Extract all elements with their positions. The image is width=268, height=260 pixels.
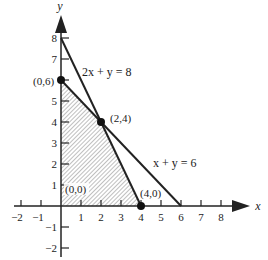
x-tick-label: 2	[98, 211, 104, 223]
x-tick-label: 5	[158, 211, 164, 223]
x-tick-label: −1	[32, 211, 44, 223]
point-label-0-6: (0,6)	[33, 75, 54, 88]
x-tick-labels: −2 −1 1 2 3 4 5 6 7 8	[11, 211, 224, 223]
x-tick-label: 6	[178, 211, 184, 223]
linear-programming-graph: −2 −1 1 2 3 4 5 6 7 8 −2 −1 1 2 3 4 5 7 …	[0, 0, 268, 260]
point-label-0-0: (0,0)	[65, 183, 86, 196]
point-label-4-0: (4,0)	[140, 187, 161, 200]
vertex-marker-4-0	[137, 202, 145, 210]
y-tick-label: 5	[52, 95, 58, 107]
y-tick-label: 2	[52, 158, 58, 170]
y-tick-label: 1	[52, 179, 58, 191]
vertex-marker-0-6	[57, 76, 65, 84]
y-tick-label: 7	[52, 53, 58, 65]
x-tick-label: 7	[198, 211, 204, 223]
y-tick-label: −1	[45, 221, 57, 233]
x-ticks	[21, 200, 221, 206]
y-tick-labels: −2 −1 1 2 3 4 5 7 8	[45, 32, 57, 254]
y-tick-label: 8	[52, 32, 58, 44]
x-tick-label: 1	[78, 211, 84, 223]
point-label-2-4: (2,4)	[110, 112, 131, 125]
y-tick-label: 3	[52, 137, 58, 149]
x-tick-label: 8	[218, 211, 224, 223]
x-axis-arrow-icon	[232, 200, 250, 212]
x-tick-label: 4	[138, 211, 144, 223]
x-tick-label: 3	[118, 211, 124, 223]
x-tick-label: −2	[11, 211, 23, 223]
y-tick-label: 4	[52, 116, 58, 128]
line1-label: 2x + y = 8	[82, 65, 132, 79]
x-axis-label: x	[254, 199, 261, 213]
y-axis-label: y	[56, 0, 63, 13]
y-ticks	[61, 38, 69, 248]
line2-label: x + y = 6	[153, 156, 197, 170]
y-tick-label: −2	[45, 242, 57, 254]
vertex-marker-2-4	[97, 118, 105, 126]
y-axis-arrow-icon	[55, 15, 67, 33]
